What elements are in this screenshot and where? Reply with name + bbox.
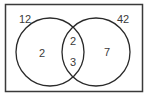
set-circle-right (62, 18, 130, 86)
venn-diagram: 12 42 2 2 3 7 (0, 0, 153, 98)
label-left-only: 2 (39, 48, 45, 59)
label-outside-left: 12 (19, 14, 31, 25)
label-right-only: 7 (104, 47, 110, 58)
label-intersection-top: 2 (70, 36, 76, 47)
label-outside-right: 42 (117, 14, 129, 25)
set-circle-left (16, 18, 84, 86)
label-intersection-bottom: 3 (70, 57, 76, 68)
